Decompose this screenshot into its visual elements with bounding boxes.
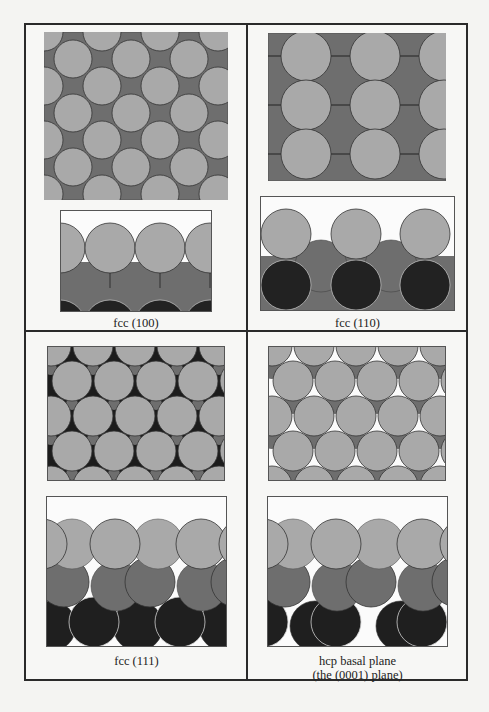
vertical-divider xyxy=(246,23,248,681)
fcc111-side-view xyxy=(46,496,227,647)
hcp0001-caption: hcp basal plane (the (0001) plane) xyxy=(267,654,448,682)
fcc111-top-view xyxy=(47,346,225,481)
horizontal-divider xyxy=(24,330,468,332)
fcc110-caption-line1: fcc (110) xyxy=(260,316,455,330)
hcp0001-top-view xyxy=(268,346,446,481)
hcp0001-caption-line1: hcp basal plane xyxy=(267,654,448,668)
fcc100-top-view xyxy=(44,32,228,200)
hcp0001-side-view xyxy=(267,496,448,647)
fcc111-caption: fcc (111) xyxy=(46,654,227,668)
hcp0001-caption-line2: (the (0001) plane) xyxy=(267,668,448,682)
fcc110-top-view xyxy=(268,33,446,181)
fcc111-caption-line1: fcc (111) xyxy=(46,654,227,668)
fcc100-side-view xyxy=(60,210,212,312)
fcc100-caption-line1: fcc (100) xyxy=(44,316,228,330)
fcc110-caption: fcc (110) xyxy=(260,316,455,330)
fcc110-side-view xyxy=(260,196,455,311)
fcc100-caption: fcc (100) xyxy=(44,316,228,330)
